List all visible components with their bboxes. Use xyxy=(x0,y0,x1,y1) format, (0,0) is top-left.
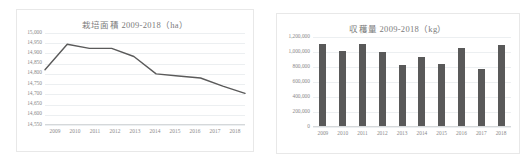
bar[interactable] xyxy=(438,64,445,127)
y-axis-tick-label: 200,000 xyxy=(292,108,310,114)
cultivated-area-plot-wrap: 15,00014,95014,90014,85014,80014,75014,7… xyxy=(17,33,253,125)
x-axis-tick-label: 2018 xyxy=(225,125,245,134)
bar-slot xyxy=(313,37,333,127)
x-axis-tick-label: 2015 xyxy=(432,127,452,136)
bar[interactable] xyxy=(399,65,406,127)
cultivated-area-x-axis-labels: 2009201020112012201320142015201620172018 xyxy=(45,125,245,134)
bar-slot xyxy=(392,37,412,127)
x-axis-tick-label: 2018 xyxy=(491,127,511,136)
x-axis-tick-label: 2011 xyxy=(353,127,373,136)
harvest-volume-chart-card: 収穫量 2009-2018（kg） 1,200,0001,000,000800,… xyxy=(276,13,520,154)
x-axis-tick-label: 2016 xyxy=(452,127,472,136)
x-axis-tick-label: 2015 xyxy=(165,125,185,134)
bar[interactable] xyxy=(319,44,326,127)
cultivated-area-chart-card: 栽培面積 2009-2018（ha） 15,00014,95014,90014,… xyxy=(16,9,254,152)
bar-slot xyxy=(412,37,432,127)
y-axis-tick-label: 14,550 xyxy=(27,121,42,127)
bar[interactable] xyxy=(498,45,505,127)
x-axis-tick-label: 2014 xyxy=(145,125,165,134)
x-axis-tick-label: 2010 xyxy=(65,125,85,134)
bar-slot xyxy=(353,37,373,127)
bar[interactable] xyxy=(418,57,425,127)
harvest-volume-x-axis-labels: 2009201020112012201320142015201620172018 xyxy=(313,127,511,136)
y-axis-tick-label: 14,600 xyxy=(27,110,42,116)
x-axis-tick-label: 2014 xyxy=(412,127,432,136)
y-axis-tick-label: 800,000 xyxy=(292,63,310,69)
bar[interactable] xyxy=(359,44,366,127)
y-axis-tick-label: 1,000,000 xyxy=(288,48,310,54)
y-axis-tick-label: 14,950 xyxy=(27,39,42,45)
bar-slot xyxy=(372,37,392,127)
harvest-volume-plot-wrap: 1,200,0001,000,000800,000600,000400,0002… xyxy=(277,37,519,127)
bar-slot xyxy=(471,37,491,127)
x-axis-tick-label: 2017 xyxy=(205,125,225,134)
y-axis-tick-label: 0 xyxy=(307,123,310,129)
bar[interactable] xyxy=(339,51,346,128)
harvest-volume-chart-title: 収穫量 2009-2018（kg） xyxy=(277,14,519,34)
line-path xyxy=(45,44,245,93)
x-axis-tick-label: 2012 xyxy=(105,125,125,134)
x-axis-tick-label: 2012 xyxy=(372,127,392,136)
bar-slot xyxy=(333,37,353,127)
y-axis-tick-label: 14,700 xyxy=(27,90,42,96)
harvest-volume-plot-area: 1,200,0001,000,000800,000600,000400,0002… xyxy=(313,37,511,127)
y-axis-tick-label: 600,000 xyxy=(292,78,310,84)
cultivated-area-plot-area: 15,00014,95014,90014,85014,80014,75014,7… xyxy=(45,33,245,125)
y-axis-tick-label: 14,850 xyxy=(27,59,42,65)
x-axis-tick-label: 2009 xyxy=(313,127,333,136)
bar[interactable] xyxy=(379,52,386,127)
x-axis-tick-label: 2016 xyxy=(185,125,205,134)
y-axis-tick-label: 14,650 xyxy=(27,100,42,106)
x-axis-tick-label: 2011 xyxy=(85,125,105,134)
bar-slot xyxy=(432,37,452,127)
harvest-volume-bar-series xyxy=(313,37,511,127)
bar-slot xyxy=(491,37,511,127)
bar[interactable] xyxy=(458,48,465,128)
bar-slot xyxy=(452,37,472,127)
x-axis-tick-label: 2017 xyxy=(471,127,491,136)
x-axis-tick-label: 2013 xyxy=(392,127,412,136)
x-axis-tick-label: 2009 xyxy=(45,125,65,134)
cultivated-area-line-series xyxy=(45,33,245,125)
x-axis-tick-label: 2013 xyxy=(125,125,145,134)
y-axis-tick-label: 14,750 xyxy=(27,80,42,86)
cultivated-area-chart-title: 栽培面積 2009-2018（ha） xyxy=(17,10,253,30)
x-axis-tick-label: 2010 xyxy=(333,127,353,136)
y-axis-tick-label: 400,000 xyxy=(292,93,310,99)
charts-page: 栽培面積 2009-2018（ha） 15,00014,95014,90014,… xyxy=(0,0,532,168)
bar[interactable] xyxy=(478,69,485,128)
y-axis-tick-label: 14,900 xyxy=(27,49,42,55)
y-axis-tick-label: 14,800 xyxy=(27,69,42,75)
